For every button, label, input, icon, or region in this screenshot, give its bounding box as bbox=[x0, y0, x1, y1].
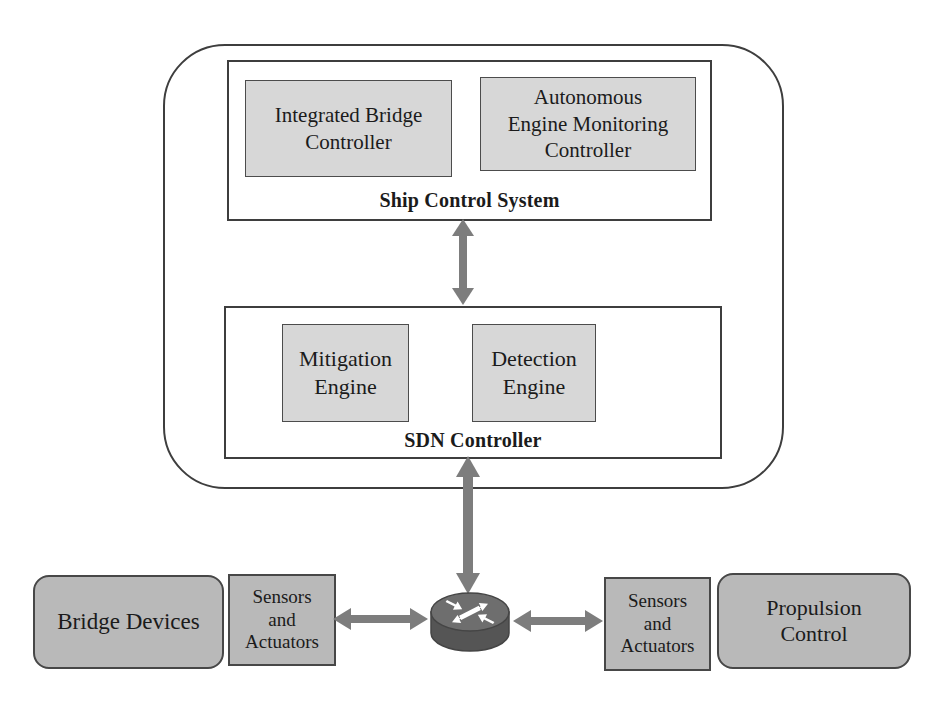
propulsion-control-label: PropulsionControl bbox=[766, 595, 861, 647]
sensors-actuators-right-box: SensorsandActuators bbox=[604, 577, 711, 671]
ship-control-system-label: Ship Control System bbox=[229, 189, 710, 212]
detection-engine-label: DetectionEngine bbox=[491, 345, 577, 401]
ship-control-system-box: Integrated BridgeController AutonomousEn… bbox=[227, 60, 712, 221]
sdn-network-arrow-icon bbox=[454, 456, 482, 594]
router-icon bbox=[429, 591, 511, 653]
propulsion-control-box: PropulsionControl bbox=[717, 573, 911, 669]
sensors-actuators-left-label: SensorsandActuators bbox=[245, 586, 319, 653]
integrated-bridge-controller-label: Integrated BridgeController bbox=[275, 102, 423, 156]
autonomous-engine-monitoring-controller-box: AutonomousEngine MonitoringController bbox=[480, 77, 696, 171]
sdn-controller-box: MitigationEngine DetectionEngine SDN Con… bbox=[224, 306, 722, 459]
scs-sdn-arrow-icon bbox=[451, 219, 475, 305]
mitigation-engine-label: MitigationEngine bbox=[299, 345, 392, 401]
detection-engine-box: DetectionEngine bbox=[472, 324, 596, 422]
router-sensors-right-arrow-icon bbox=[513, 608, 603, 634]
integrated-bridge-controller-box: Integrated BridgeController bbox=[245, 80, 452, 177]
architecture-diagram: Integrated BridgeController AutonomousEn… bbox=[0, 0, 946, 716]
mitigation-engine-box: MitigationEngine bbox=[282, 324, 409, 422]
sdn-controller-label: SDN Controller bbox=[226, 429, 720, 452]
bridge-devices-label: Bridge Devices bbox=[57, 608, 199, 635]
sensors-actuators-left-box: SensorsandActuators bbox=[228, 574, 336, 666]
autonomous-engine-monitoring-controller-label: AutonomousEngine MonitoringController bbox=[508, 84, 668, 165]
sensors-router-left-arrow-icon bbox=[333, 606, 428, 632]
bridge-devices-box: Bridge Devices bbox=[33, 575, 224, 669]
sensors-actuators-right-label: SensorsandActuators bbox=[621, 590, 695, 657]
